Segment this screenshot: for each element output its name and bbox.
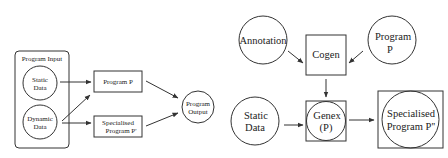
output-label-2: Output (188, 108, 208, 116)
left-output-node: Program Output (182, 91, 214, 123)
genex-label-2: (P) (320, 122, 333, 134)
right-program-p-node: Program P (368, 16, 416, 64)
arrow-dynamic-to-program (62, 95, 90, 121)
cogen-node: Cogen (306, 35, 346, 75)
program-input-label: Program Input (22, 55, 63, 63)
arrow-specialised-to-output (146, 113, 178, 126)
genex-node: Genex (P) (306, 101, 346, 141)
specialised-p2-node: Specialised Program P'' (378, 91, 443, 148)
left-specialised-node: Specialised Program P' (94, 116, 142, 137)
program-p-label: Program P (103, 78, 133, 86)
specialised-label-2: Program P' (105, 127, 136, 135)
left-static-data-node: Static Data (23, 66, 57, 100)
static-data-circle-right (231, 97, 279, 145)
static-data-right-label-2: Data (245, 122, 265, 133)
annotation-node: Annotation (239, 16, 287, 64)
left-program-p-node: Program P (94, 71, 142, 92)
static-data-label-2: Data (33, 84, 47, 92)
specialised-p2-circle (382, 91, 439, 148)
program-p-label-2: P (387, 44, 393, 55)
arrow-program-to-output (146, 81, 178, 98)
arrow-annotation-to-cogen (288, 51, 303, 63)
specialised-p2-label-1: Specialised (387, 108, 436, 119)
specialised-p2-label-2: Program P'' (387, 121, 436, 132)
specialised-p2-box (378, 91, 443, 148)
genex-circle (307, 102, 346, 141)
dynamic-data-label-2: Data (33, 123, 47, 131)
diagram-canvas: Program Input Static Data Dynamic Data P… (0, 0, 448, 158)
right-static-data-node: Static Data (231, 97, 279, 145)
genex-label-1: Genex (313, 110, 341, 121)
arrow-program-to-cogen (349, 51, 363, 63)
right-diagram: Annotation Cogen Program P Static Data G… (231, 16, 443, 148)
static-data-label-1: Static (32, 76, 48, 84)
static-data-right-label-1: Static (244, 110, 268, 121)
program-p-label-1: Program (375, 31, 411, 42)
left-diagram: Program Input Static Data Dynamic Data P… (15, 51, 214, 148)
specialised-label-1: Specialised (102, 119, 134, 127)
left-dynamic-data-node: Dynamic Data (23, 105, 57, 139)
cogen-label: Cogen (312, 49, 340, 60)
annotation-label: Annotation (239, 35, 287, 46)
output-label-1: Program (186, 100, 211, 108)
dynamic-data-label-1: Dynamic (27, 115, 53, 123)
